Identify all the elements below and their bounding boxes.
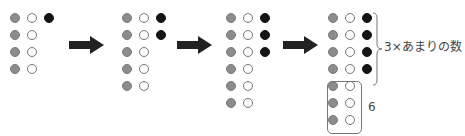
gray-dot	[226, 81, 236, 91]
white-dot	[243, 13, 253, 23]
gray-dot	[328, 13, 338, 23]
gray-dot	[10, 30, 20, 40]
white-dot	[27, 13, 37, 23]
white-dot	[243, 98, 253, 108]
black-dot	[156, 13, 166, 23]
gray-dot	[122, 30, 132, 40]
black-dot	[260, 30, 270, 40]
box-label: 6	[368, 100, 376, 114]
gray-dot	[226, 13, 236, 23]
gray-dot	[226, 30, 236, 40]
black-dot	[156, 30, 166, 40]
brace-icon	[372, 12, 384, 90]
gray-dot	[10, 64, 20, 74]
white-dot	[243, 30, 253, 40]
gray-dot	[226, 98, 236, 108]
black-dot	[362, 30, 372, 40]
gray-dot	[10, 13, 20, 23]
white-dot	[243, 64, 253, 74]
white-dot	[345, 13, 355, 23]
gray-dot	[10, 47, 20, 57]
white-dot	[345, 64, 355, 74]
gray-dot	[122, 13, 132, 23]
arrow-icon	[69, 36, 105, 58]
black-dot	[362, 47, 372, 57]
arrow-icon	[177, 36, 213, 58]
gray-dot	[226, 64, 236, 74]
white-dot	[139, 64, 149, 74]
brace-label: 3×あまりの数	[384, 40, 462, 54]
gray-dot	[328, 64, 338, 74]
gray-dot	[328, 47, 338, 57]
gray-dot	[328, 30, 338, 40]
black-dot	[260, 13, 270, 23]
group-box	[327, 81, 362, 134]
white-dot	[345, 47, 355, 57]
gray-dot	[226, 47, 236, 57]
white-dot	[27, 30, 37, 40]
white-dot	[27, 47, 37, 57]
white-dot	[139, 81, 149, 91]
black-dot	[362, 64, 372, 74]
black-dot	[362, 13, 372, 23]
white-dot	[139, 47, 149, 57]
white-dot	[243, 81, 253, 91]
white-dot	[345, 30, 355, 40]
white-dot	[243, 47, 253, 57]
gray-dot	[122, 64, 132, 74]
white-dot	[27, 64, 37, 74]
white-dot	[139, 30, 149, 40]
arrow-icon	[283, 36, 319, 58]
white-dot	[139, 13, 149, 23]
black-dot	[44, 13, 54, 23]
gray-dot	[122, 81, 132, 91]
gray-dot	[122, 47, 132, 57]
black-dot	[260, 47, 270, 57]
